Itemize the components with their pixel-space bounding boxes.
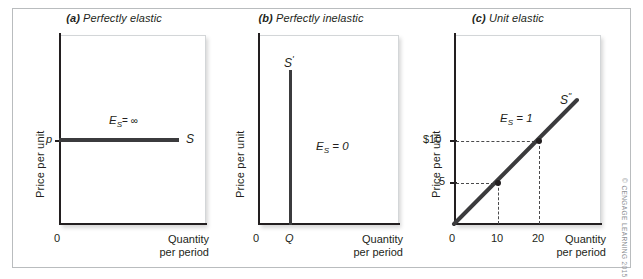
panel-c-supply-curve xyxy=(448,83,593,228)
figure-root: (a) Perfectly elastic Price per unit Qua… xyxy=(0,0,643,279)
panel-a-title-text: Perfectly elastic xyxy=(83,12,162,24)
panel-b-annot-sub: S xyxy=(324,146,329,155)
panel-c-annot-sub: S xyxy=(508,118,513,127)
panel-b-x-tick-q: Q xyxy=(285,232,294,244)
panel-b-x-axis-label: Quantity per period xyxy=(308,233,403,259)
panel-c-annot-value: = 1 xyxy=(516,112,532,124)
panel-b-title: (b) Perfectly inelastic xyxy=(218,12,404,24)
panel-c-y-tick-10: $10 xyxy=(423,133,441,145)
copyright-notice: © CENGAGE LEARNING 2015 xyxy=(621,178,628,278)
panel-a-supply-curve xyxy=(59,138,179,142)
panel-b-x-axis-label-line2: per period xyxy=(353,246,403,258)
panel-b-title-text: Perfectly inelastic xyxy=(276,12,364,24)
panel-a-y-tick-p: p xyxy=(46,133,52,145)
panel-c-origin-label: 0 xyxy=(449,232,455,244)
panel-b-supply-curve xyxy=(289,70,292,225)
panel-a-supply-curve-label: S xyxy=(186,132,194,146)
panel-c-tag: (c) xyxy=(472,12,486,24)
panel-c-title-text: Unit elastic xyxy=(489,12,544,24)
panel-b-x-axis xyxy=(258,223,400,225)
panel-a-annot-value: = ∞ xyxy=(122,115,138,126)
panel-a-x-axis-label-line2: per period xyxy=(159,246,209,258)
panel-c-curve-letter: S xyxy=(560,93,568,107)
panel-c-data-point-20-10 xyxy=(536,138,542,144)
panel-c-annot-base: E xyxy=(500,112,508,124)
panel-c-x-axis-label: Quantity per period xyxy=(511,233,606,259)
panel-a-tag: (a) xyxy=(66,12,80,24)
panel-unit-elastic: (c) Unit elastic Price per unit Quantity… xyxy=(408,8,608,258)
panel-c-x-axis-label-line1: Quantity xyxy=(565,233,606,245)
panel-c-y-tick-5: 5 xyxy=(439,175,445,187)
panel-a-title: (a) Perfectly elastic xyxy=(14,12,214,24)
panel-b-curve-prime: ' xyxy=(292,54,294,64)
panel-a-y-axis xyxy=(59,33,61,225)
panel-c-data-point-10-5 xyxy=(495,180,501,186)
panel-c-x-axis-label-line2: per period xyxy=(556,246,606,258)
panel-a-plot-box xyxy=(60,35,206,225)
panel-b-annot-base: E xyxy=(316,140,324,152)
panel-perfectly-inelastic: (b) Perfectly inelastic Price per unit Q… xyxy=(218,8,404,258)
panel-b-x-axis-label-line1: Quantity xyxy=(362,233,403,245)
panel-c-x-tick-20: 20 xyxy=(532,232,544,244)
panel-c-x-tick-10: 10 xyxy=(491,232,503,244)
panel-b-y-axis xyxy=(258,33,260,225)
panel-a-x-axis xyxy=(59,223,207,225)
panel-b-tag: (b) xyxy=(258,12,272,24)
panel-c-title: (c) Unit elastic xyxy=(408,12,608,24)
panel-perfectly-elastic: (a) Perfectly elastic Price per unit Qua… xyxy=(14,8,214,258)
panel-b-supply-curve-label: S' xyxy=(284,54,294,70)
panel-a-x-axis-label-line1: Quantity xyxy=(168,233,209,245)
panel-b-annot-value: = 0 xyxy=(332,140,348,152)
panel-c-elasticity-annotation: ES = 1 xyxy=(500,112,533,127)
panel-a-elasticity-annotation: ES= ∞ xyxy=(109,114,138,129)
panel-a-origin-label: 0 xyxy=(54,232,60,244)
panel-c-supply-curve-label: S" xyxy=(560,91,571,107)
panel-b-elasticity-annotation: ES = 0 xyxy=(316,140,349,155)
panel-a-y-axis-label: Price per unit xyxy=(34,130,46,198)
panel-b-plot-box xyxy=(259,35,399,225)
panel-c-curve-prime: " xyxy=(568,91,571,101)
panel-b-curve-letter: S xyxy=(284,56,292,70)
panel-b-y-axis-label: Price per unit xyxy=(234,130,246,198)
panel-b-origin-label: 0 xyxy=(253,232,259,244)
panel-a-x-axis-label: Quantity per period xyxy=(114,233,209,259)
panel-a-annot-base: E xyxy=(109,114,117,126)
